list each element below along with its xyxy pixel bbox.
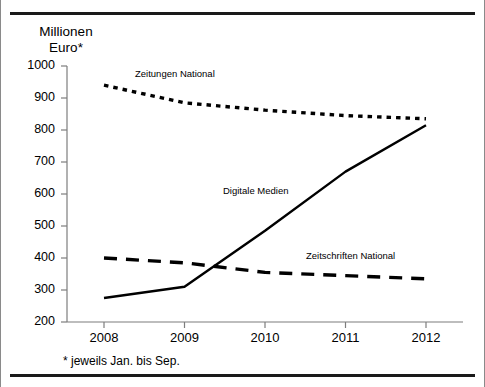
series-label-zeitschriften-national: Zeitschriften National (306, 250, 395, 261)
x-axis-tick-label: 2010 (240, 330, 290, 345)
x-axis-ticks (104, 322, 426, 328)
y-axis-tick-label: 1000 (15, 58, 55, 72)
series-line-zeitungen-national (104, 85, 426, 119)
x-axis-tick-label: 2008 (79, 330, 129, 345)
chart-figure: Millionen Euro* 200300400500600700800900… (0, 0, 485, 387)
y-axis-tick-label: 400 (15, 250, 55, 264)
y-axis-tick-label: 500 (15, 218, 55, 232)
y-axis-tick-label: 800 (15, 122, 55, 136)
series-label-zeitungen-national: Zeitungen National (135, 68, 215, 79)
y-axis-tick-label: 700 (15, 154, 55, 168)
x-axis-tick-label: 2012 (401, 330, 451, 345)
axes (61, 66, 463, 328)
x-axis-tick-label: 2011 (321, 330, 371, 345)
y-axis-ticks (61, 66, 67, 322)
y-axis-tick-label: 900 (15, 90, 55, 104)
y-axis-tick-label: 300 (15, 282, 55, 296)
y-axis-tick-label: 600 (15, 186, 55, 200)
footnote: * jeweils Jan. bis Sep. (63, 354, 180, 368)
series-line-zeitschriften-national (104, 258, 426, 279)
series-label-digitale-medien: Digitale Medien (223, 185, 288, 196)
y-axis-tick-label: 200 (15, 314, 55, 328)
x-axis-tick-label: 2009 (160, 330, 210, 345)
